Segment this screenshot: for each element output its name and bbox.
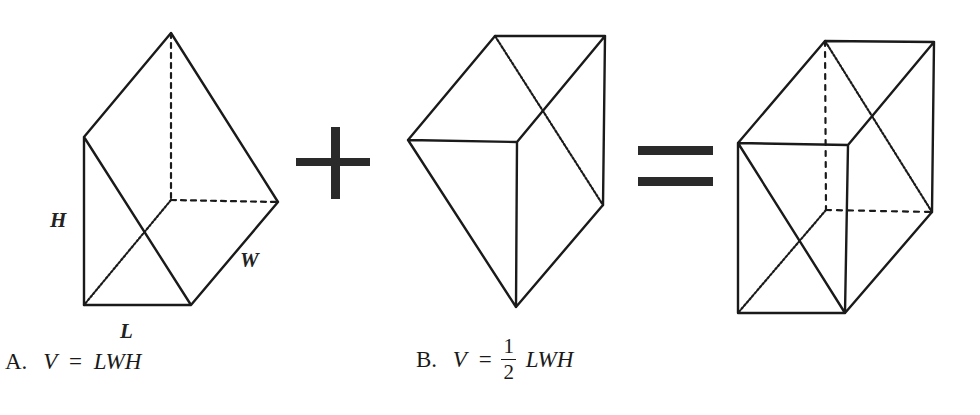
answer-b-letter: B.: [416, 347, 437, 372]
prism-b: [408, 36, 605, 307]
answer-a-eq: =: [69, 349, 82, 374]
answer-b[interactable]: B. V = 1 2 LWH: [416, 336, 573, 383]
answer-a[interactable]: A. V = LWH: [5, 349, 141, 375]
height-label: H: [50, 208, 66, 233]
answer-b-eq: =: [479, 347, 492, 372]
answer-b-lhs: V: [453, 347, 467, 372]
fraction-numerator: 1: [501, 336, 516, 360]
plus-sign: [296, 127, 370, 199]
fraction-one-half: 1 2: [501, 336, 516, 383]
length-label: L: [120, 319, 133, 344]
rectangular-box: [738, 41, 934, 313]
width-label: W: [240, 248, 259, 273]
equals-sign: [638, 146, 713, 186]
answer-b-rhs: LWH: [526, 347, 574, 372]
fraction-denominator: 2: [501, 360, 516, 383]
answer-a-letter: A.: [5, 349, 27, 374]
answer-a-rhs: LWH: [94, 349, 142, 374]
answer-a-lhs: V: [43, 349, 57, 374]
